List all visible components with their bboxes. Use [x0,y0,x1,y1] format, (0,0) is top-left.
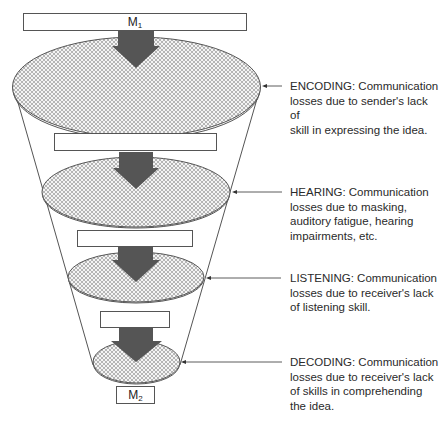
message-in-box: M1 [23,13,247,31]
communication-funnel-diagram: M1 M2 ENCODING: Communication losses due… [0,0,441,422]
hearing-label: HEARING: Communication losses due to mas… [290,185,440,243]
left-arrowhead-icon [206,276,211,280]
listening-label: LISTENING: Communication losses due to r… [290,271,440,315]
message-out-label: M2 [128,388,142,403]
left-arrowhead-icon [232,190,237,194]
left-arrowhead-icon [262,84,267,88]
message-out-box: M2 [116,386,155,404]
message-in-label: M1 [128,15,142,30]
listened-message-box [100,311,170,328]
encoded-message-box [54,133,217,151]
encoding-label: ENCODING: Communication losses due to se… [290,79,440,137]
heard-message-box [77,230,193,247]
decoding-label: DECODING: Communication losses due to re… [290,355,440,413]
